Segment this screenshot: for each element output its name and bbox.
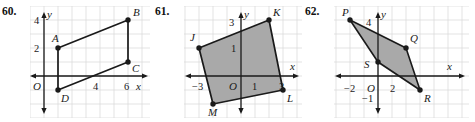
problem-62-figure: P Q R S 4 −2 −1 2 y x O [334, 6, 469, 118]
vertex-b-dot [125, 17, 130, 22]
tick-label-x3-61: 3 [279, 81, 284, 92]
vertex-label-l: L [286, 92, 293, 104]
y-axis-label-61: y [243, 8, 249, 20]
coordinate-plane-60: A B C D 4 2 4 6 y x O [30, 6, 150, 118]
tick-label-y1-61: 1 [231, 43, 236, 54]
vertex-label-r: R [423, 92, 431, 104]
problem-61-number: 61. [155, 5, 169, 17]
tick-label-x4-60: 4 [93, 81, 99, 92]
tick-label-ym1-62: −1 [362, 93, 373, 104]
vertex-label-q: Q [410, 32, 418, 44]
origin-label-60: O [33, 80, 41, 92]
y-axis-label-60: y [46, 8, 52, 20]
vertex-label-p: P [341, 6, 349, 18]
tick-label-y3-61: 3 [229, 17, 234, 28]
tick-label-x6-60: 6 [124, 81, 129, 92]
problem-62-number: 62. [305, 5, 319, 17]
vertex-label-b: B [133, 6, 140, 18]
origin-label-62: O [367, 82, 375, 94]
tick-label-xm2-62: −2 [344, 83, 355, 94]
problem-62: 62. [302, 0, 475, 122]
tick-label-y4-62: 4 [366, 17, 372, 28]
vertex-p-dot [347, 17, 352, 22]
figure-sheet: 60. [0, 0, 475, 122]
tick-label-x2-62: 2 [390, 83, 395, 94]
vertex-j-dot [196, 45, 201, 50]
vertex-label-m: M [207, 106, 218, 118]
vertex-a-dot [55, 45, 60, 50]
tick-label-x1-61: 1 [252, 81, 257, 92]
vertex-label-d: D [60, 92, 69, 104]
problem-61-figure: J K L M 3 1 −3 1 3 y x O [184, 6, 302, 118]
tick-label-y2-60: 2 [34, 43, 39, 54]
vertex-d-dot [55, 87, 60, 92]
x-axis-label-62: x [446, 60, 452, 72]
problem-60-figure: A B C D 4 2 4 6 y x O [30, 6, 150, 118]
tick-label-y4-60: 4 [34, 15, 40, 26]
x-axis-label-61: x [289, 60, 295, 72]
tick-label-xm3-61: −3 [192, 81, 203, 92]
vertex-c-dot [125, 59, 130, 64]
coordinate-plane-61: J K L M 3 1 −3 1 3 y x O [184, 6, 302, 118]
vertex-q-dot [403, 45, 408, 50]
vertex-s-dot [375, 59, 380, 64]
vertex-r-dot [417, 87, 422, 92]
coordinate-plane-62: P Q R S 4 −2 −1 2 y x O [334, 6, 469, 118]
vertex-label-k: K [272, 6, 281, 18]
problem-60: 60. [0, 0, 150, 122]
problem-61: 61. [152, 0, 300, 122]
vertex-k-dot [266, 17, 271, 22]
vertex-label-c: C [132, 62, 140, 74]
problem-60-number: 60. [2, 5, 16, 17]
vertex-label-a: A [51, 32, 59, 44]
x-axis-label-60: x [135, 80, 141, 92]
origin-label-61: O [229, 80, 237, 92]
vertex-label-s: S [364, 58, 370, 70]
y-axis-label-62: y [380, 8, 386, 20]
